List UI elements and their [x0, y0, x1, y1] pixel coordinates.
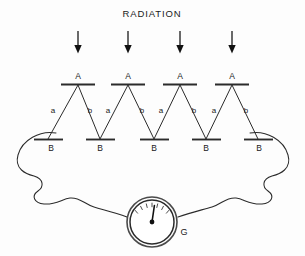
leg-label-a: a [212, 106, 217, 115]
leg-label-b: b [244, 106, 249, 115]
thermopile-diagram: RADIATION [0, 0, 305, 256]
radiation-title: RADIATION [122, 8, 181, 19]
cold-junction-label: B [97, 143, 103, 153]
leg-label-b: b [140, 106, 145, 115]
radiation-arrow-1 [74, 31, 81, 54]
radiation-arrow-group [74, 31, 235, 54]
leg-labels: a b a b a b a b [51, 106, 249, 115]
galvanometer [127, 197, 177, 247]
hot-junction-label: A [75, 71, 81, 81]
leg-label-b: b [88, 106, 93, 115]
hot-junction-label: A [229, 71, 235, 81]
radiation-arrow-3 [176, 31, 183, 54]
galvanometer-label: G [180, 227, 187, 237]
diagram-canvas: RADIATION [0, 0, 305, 256]
cold-junction-labels: B B B B B [48, 143, 262, 153]
wire-right-lead [178, 132, 289, 217]
leg-label-a: a [106, 106, 111, 115]
cold-junction-label: B [203, 143, 209, 153]
radiation-arrow-2 [124, 31, 131, 54]
thermoelement-zigzag [48, 85, 258, 139]
leg-label-a: a [159, 106, 164, 115]
leg-label-a: a [51, 106, 56, 115]
hot-junction-labels: A A A A [75, 71, 235, 81]
cold-junction-label: B [48, 143, 54, 153]
wire-left-lead [17, 132, 127, 217]
leg-label-b: b [192, 106, 197, 115]
radiation-arrow-4 [228, 31, 235, 54]
galvanometer-hub [150, 220, 155, 225]
cold-junction-label: B [256, 143, 262, 153]
hot-junction-label: A [177, 71, 183, 81]
hot-junction-label: A [125, 71, 131, 81]
cold-junction-label: B [151, 143, 157, 153]
